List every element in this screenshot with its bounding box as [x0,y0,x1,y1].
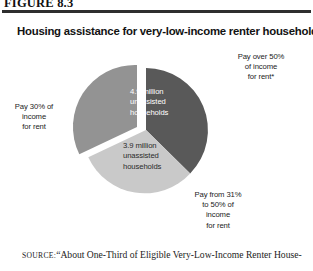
callout-pay-30-percent: Pay 30% of income for rent [2,102,66,133]
callout-pay-over-50-percent: Pay over 50% of income for rent* [222,52,300,83]
slice-label-unassisted-39: 3.9 million unassisted households [123,141,185,172]
slice-label-unassisted-49: 4.9 million unassisted households [130,87,192,118]
page-title: Housing assistance for very-low-income r… [17,25,302,37]
callout-pay-31-to-50-percent: Pay from 31% to 50% of income for rent [175,190,261,231]
source-prefix: SOURCE: [22,251,56,260]
source-note: SOURCE:“About One-Third of Eligible Very… [22,249,310,262]
header-rule [2,10,311,13]
pie-chart: 4.3 million assisted households 4.9 mill… [0,46,313,236]
source-text: “About One-Third of Eligible Very-Low-In… [56,249,301,260]
